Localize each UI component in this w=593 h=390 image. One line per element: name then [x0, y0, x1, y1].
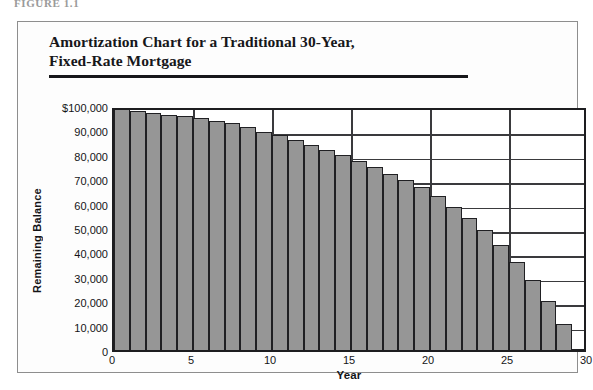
- bar: [398, 180, 414, 350]
- y-axis-tick-label: $100,000: [48, 102, 108, 114]
- x-axis-tick-label: 5: [188, 354, 194, 366]
- bar: [130, 111, 146, 350]
- chart-title-line-1: Amortization Chart for a Traditional 30-…: [49, 32, 509, 51]
- x-axis-title: Year: [112, 369, 586, 381]
- bar: [572, 349, 586, 350]
- bar: [209, 121, 225, 350]
- bar: [193, 118, 209, 350]
- bar: [414, 187, 430, 350]
- bar: [288, 140, 304, 350]
- y-axis-tick-label: 30,000: [48, 273, 108, 285]
- x-axis-tick-labels: 051015202530: [112, 354, 586, 370]
- y-axis-tick-labels: $100,00090,00080,00070,00060,00050,00040…: [48, 108, 108, 352]
- figure-caption: FIGURE 1.1: [14, 0, 134, 7]
- bars-series-remaining-balance: [114, 110, 584, 350]
- bar: [319, 150, 335, 350]
- bar: [225, 123, 241, 350]
- bar: [556, 324, 572, 350]
- bar: [114, 108, 130, 350]
- x-axis-tick-label: 10: [264, 354, 276, 366]
- x-axis-tick-label: 15: [343, 354, 355, 366]
- chart-title: Amortization Chart for a Traditional 30-…: [49, 32, 509, 70]
- bar: [446, 207, 462, 350]
- y-axis-tick-label: 10,000: [48, 322, 108, 334]
- x-axis-tick-label: 25: [501, 354, 513, 366]
- y-axis-tick-label: 20,000: [48, 297, 108, 309]
- y-axis-tick-label: 50,000: [48, 224, 108, 236]
- bar: [304, 145, 320, 350]
- title-rule-divider: [49, 75, 468, 78]
- figure-panel: Amortization Chart for a Traditional 30-…: [17, 21, 578, 373]
- y-axis-tick-label: 70,000: [48, 175, 108, 187]
- chart-title-line-2: Fixed-Rate Mortgage: [49, 51, 509, 70]
- bar: [335, 155, 351, 350]
- x-axis-tick-label: 30: [580, 354, 592, 366]
- bar: [541, 301, 557, 350]
- bar: [351, 161, 367, 350]
- x-axis-tick-label: 20: [422, 354, 434, 366]
- y-axis-tick-label: 80,000: [48, 151, 108, 163]
- bar: [383, 174, 399, 350]
- bar: [462, 218, 478, 350]
- bar: [146, 113, 162, 350]
- y-axis-title: Remaining Balance: [31, 176, 47, 306]
- bar: [509, 262, 525, 350]
- bar: [493, 245, 509, 350]
- y-axis-tick-label: 60,000: [48, 200, 108, 212]
- bar: [161, 115, 177, 350]
- bar: [272, 135, 288, 350]
- amortization-chart: Remaining Balance $100,00090,00080,00070…: [18, 84, 579, 374]
- bar: [367, 167, 383, 350]
- y-axis-tick-label: 40,000: [48, 248, 108, 260]
- bar: [256, 132, 272, 350]
- bar: [525, 280, 541, 350]
- x-axis-tick-label: 0: [109, 354, 115, 366]
- bar: [240, 127, 256, 350]
- bar: [477, 230, 493, 350]
- y-axis-tick-label: 90,000: [48, 126, 108, 138]
- y-axis-tick-label: 0: [48, 346, 108, 358]
- bar: [177, 116, 193, 350]
- bar: [430, 196, 446, 350]
- plot-area: [112, 108, 586, 352]
